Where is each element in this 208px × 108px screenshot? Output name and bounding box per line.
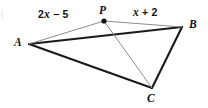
point-P-dot (101, 18, 106, 23)
expression-right-suffix: + 2 (139, 6, 158, 18)
vertex-label-A: A (14, 37, 22, 49)
segment-AC (29, 44, 152, 88)
segment-AB (29, 27, 182, 44)
expression-label-left: 2x − 5 (38, 9, 69, 21)
expression-left-suffix: − 5 (50, 8, 69, 20)
vertex-label-C: C (147, 93, 155, 105)
geometry-figure: A B C P 2x − 5 x + 2 (0, 0, 208, 108)
vertex-label-B: B (189, 19, 197, 31)
vertex-label-P: P (99, 5, 106, 17)
segment-BC (152, 27, 182, 88)
expression-label-right: x + 2 (133, 7, 158, 19)
segment-PB (104, 21, 182, 27)
